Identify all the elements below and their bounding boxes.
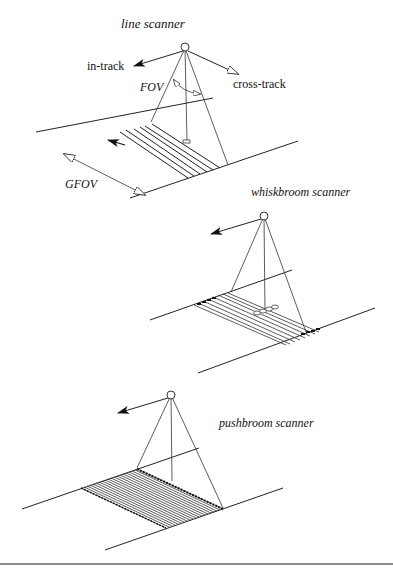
in-track-arrow — [211, 219, 261, 234]
pushbroom-scanner-panel: pushbroom scanner — [22, 391, 314, 550]
fov-label: FOV — [139, 80, 165, 94]
whiskbroom-title: whiskbroom scanner — [251, 185, 351, 199]
scanner-diagram: line scanner FOV in-track cross-track — [0, 0, 393, 572]
nadir-line — [264, 216, 265, 311]
sensor-icon — [167, 391, 175, 399]
line-scanner-panel: line scanner FOV in-track cross-track — [36, 16, 298, 198]
ground-edge-upper — [150, 270, 292, 320]
in-track-arrow — [118, 398, 168, 413]
nadir-line — [171, 395, 172, 481]
gfov-label: GFOV — [65, 177, 99, 191]
line-scanner-title: line scanner — [121, 16, 186, 31]
sensor-icon — [181, 43, 189, 51]
fov-arc — [174, 80, 200, 94]
fov-cone-right — [185, 48, 228, 165]
fov-cone-left — [231, 216, 264, 292]
detector-array — [254, 305, 279, 315]
scan-lines — [194, 293, 319, 345]
ground-in-track-arrow — [108, 140, 125, 145]
scan-lines — [120, 124, 220, 178]
in-track-arrow — [134, 51, 183, 66]
ifov-footprint — [183, 140, 190, 143]
cross-track-label: cross-track — [233, 77, 286, 91]
in-track-label: in-track — [87, 59, 124, 73]
cross-track-arrow — [188, 51, 238, 74]
sensor-icon — [260, 212, 268, 220]
pushbroom-title: pushbroom scanner — [218, 416, 314, 430]
nadir-line — [185, 48, 187, 141]
whiskbroom-scanner-panel: whiskbroom scanner — [150, 185, 375, 373]
